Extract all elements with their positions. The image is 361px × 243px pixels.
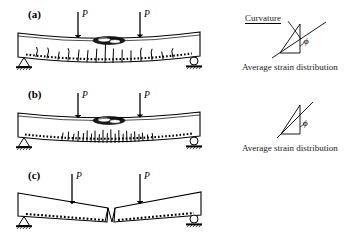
panel-b-load-label-2: P	[144, 90, 150, 100]
panel-c-group	[16, 174, 202, 229]
panel-c-load-arrows	[72, 174, 140, 203]
panel-a-load-label-2: P	[144, 9, 150, 19]
panel-c-roller-support	[186, 215, 202, 227]
panel-a-load-label-1: P	[82, 9, 88, 19]
panel-b-crushing-zone	[93, 117, 125, 125]
phi-symbol-b: ϕ	[303, 118, 308, 128]
panel-c-left-segment	[18, 193, 108, 222]
panel-b-group	[16, 93, 202, 150]
strain-caption-a: Average strain distribution	[242, 62, 338, 72]
strain-diagram-a-group	[272, 21, 326, 58]
panel-a-roller-support	[186, 57, 202, 69]
panel-c-label: (c)	[28, 169, 40, 181]
panel-a-crushing-zone	[93, 37, 125, 45]
panel-c-load-label-1: P	[76, 171, 82, 181]
figure-root: (a) (b) (c) P P P P P P Curvature ϕ ϕ Av…	[0, 0, 361, 243]
panel-c-right-segment	[114, 192, 201, 222]
strain-triangle-a	[280, 24, 300, 53]
panel-b-label: (b)	[28, 88, 41, 100]
panel-b-roller-support	[186, 137, 202, 149]
panel-b-pin-support	[16, 138, 32, 151]
curvature-label: Curvature	[245, 13, 281, 24]
strain-triangle-b	[281, 105, 300, 134]
strain-caption-b: Average strain distribution	[242, 143, 338, 153]
panel-c-load-label-2: P	[144, 171, 150, 181]
panel-a-label: (a)	[28, 8, 41, 20]
panel-a-group	[16, 12, 202, 70]
panel-c-pin-support	[16, 217, 32, 230]
panel-b-load-label-1: P	[82, 90, 88, 100]
panel-a-pin-support	[16, 58, 32, 71]
phi-symbol-a: ϕ	[304, 36, 309, 46]
